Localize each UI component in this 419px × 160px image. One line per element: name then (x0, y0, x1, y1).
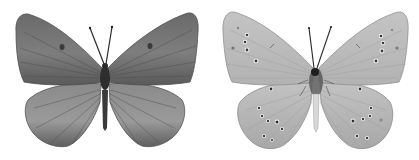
body-head (102, 63, 108, 69)
butterfly-underside (223, 12, 408, 149)
discal-spot (60, 44, 65, 50)
antenna (106, 27, 112, 64)
discal-spot (148, 43, 153, 49)
body-head (311, 68, 319, 76)
body-abdomen (102, 90, 108, 131)
butterfly-specimens (0, 0, 419, 160)
right-hindwing (320, 83, 393, 149)
body-thorax (100, 66, 110, 90)
butterfly-upperside (16, 13, 198, 147)
left-hindwing (238, 83, 312, 149)
antenna (309, 28, 314, 68)
specimen-photo (0, 0, 419, 160)
body-abdomen (313, 94, 319, 132)
